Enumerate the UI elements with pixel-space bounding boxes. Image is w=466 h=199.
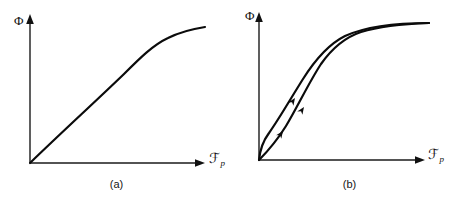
panel-a-x-axis-label-base: ℱ [209,151,220,166]
panel-b-x-axis-label: ℱp [428,148,444,164]
panel-b-caption: (b) [233,178,466,190]
panel-a-caption: (a) [0,178,233,190]
panel-b-y-axis-label: Φ [245,9,255,22]
panel-a-x-axis-label-subscript: p [220,158,225,168]
panel-a: Φ ℱp (a) [0,0,233,199]
panel-b-x-axis-arrow-icon [415,156,425,164]
panel-b-curve-upper-branch [259,23,429,160]
panel-a-x-axis-arrow-icon [195,159,205,167]
figure-root: Φ ℱp (a) Φ ℱp (b) [0,0,466,199]
panel-a-plot [0,0,233,199]
panel-b: Φ ℱp (b) [233,0,466,199]
panel-a-curve-saturating-response [30,27,205,163]
panel-b-x-axis-label-subscript: p [439,154,444,164]
panel-b-direction-arrow-lower-mid-icon [297,105,306,115]
panel-b-x-axis-label-base: ℱ [428,147,439,162]
panel-a-y-axis-label: Φ [14,14,24,27]
panel-a-x-axis-label: ℱp [209,152,225,168]
panel-b-curve-lower-branch [259,23,429,160]
panel-b-plot [233,0,466,199]
panel-a-y-axis-arrow-icon [26,14,34,24]
panel-b-y-axis-arrow-icon [255,12,263,22]
